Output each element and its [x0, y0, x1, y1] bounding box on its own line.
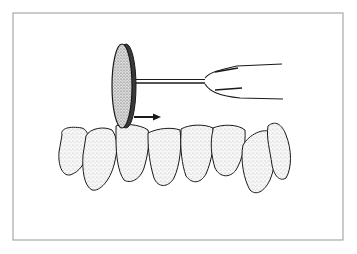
tooth-left-central-2 [148, 128, 181, 185]
handpiece-line [205, 84, 283, 99]
tooth-left-lateral [83, 128, 117, 190]
illustration-canvas [0, 0, 357, 254]
dental-illustration [0, 0, 357, 254]
handpiece-line [215, 88, 242, 90]
image-frame [13, 13, 343, 240]
arrow-right-icon [134, 114, 161, 121]
tooth-left-central-1 [116, 124, 149, 181]
tooth-right-central-1 [181, 125, 214, 182]
teeth-row [59, 123, 291, 193]
disc-instrument [112, 44, 283, 128]
tooth-right-central-2 [211, 125, 245, 176]
handpiece [205, 64, 283, 99]
separating-disc [112, 44, 132, 128]
